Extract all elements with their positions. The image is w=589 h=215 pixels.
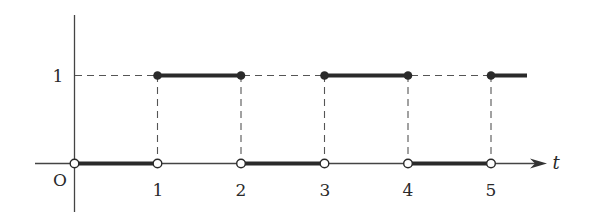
x-tick-label-1: 1 <box>153 180 164 200</box>
open-point-icon <box>237 159 246 168</box>
open-point-icon <box>404 159 413 168</box>
step-segments <box>75 76 528 164</box>
closed-point-icon <box>153 71 162 80</box>
open-point-icon <box>153 159 162 168</box>
closed-point-icon <box>487 71 496 80</box>
origin-label: O <box>53 170 67 190</box>
open-point-icon <box>70 159 79 168</box>
tick-labels: 1 O 1 2 3 4 5 t <box>53 66 561 200</box>
open-point-icon <box>487 159 496 168</box>
axes <box>35 15 547 212</box>
x-tick-label-5: 5 <box>486 180 497 200</box>
x-axis-label: t <box>552 152 560 173</box>
step-function-chart: 1 O 1 2 3 4 5 t <box>0 0 589 215</box>
dashed-guides <box>75 75 491 163</box>
x-tick-label-3: 3 <box>320 180 331 200</box>
closed-point-icon <box>404 71 413 80</box>
x-tick-label-4: 4 <box>403 180 414 200</box>
closed-point-icon <box>320 71 329 80</box>
x-tick-label-2: 2 <box>236 180 247 200</box>
open-point-icon <box>320 159 329 168</box>
closed-point-icon <box>237 71 246 80</box>
y-tick-label-1: 1 <box>53 66 64 86</box>
